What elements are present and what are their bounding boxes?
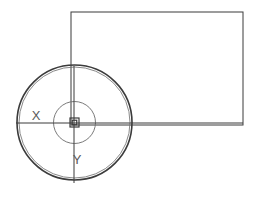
cad-drawing-canvas[interactable]: X Y	[0, 0, 253, 197]
x-axis-label: X	[32, 108, 41, 123]
cad-viewport[interactable]: X Y	[0, 0, 253, 197]
y-axis-label: Y	[73, 152, 82, 167]
